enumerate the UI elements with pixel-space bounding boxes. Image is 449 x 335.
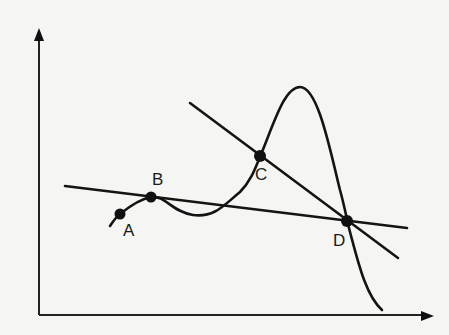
- x-axis-arrow-icon: [421, 311, 434, 321]
- x-axis: [39, 311, 434, 321]
- y-axis: [34, 28, 44, 315]
- point-b-marker: [146, 192, 157, 203]
- line-cd: [190, 103, 398, 258]
- point-b-label: B: [152, 171, 163, 188]
- line-bd: [65, 186, 407, 228]
- point-c-label: C: [255, 166, 267, 183]
- point-c-marker: [254, 150, 266, 162]
- point-d-marker: [341, 215, 353, 227]
- point-a-marker: [115, 209, 126, 220]
- point-a-label: A: [123, 222, 134, 239]
- diagram-svg: [0, 0, 449, 335]
- diagram-canvas: A B C D: [0, 0, 449, 335]
- point-d-label: D: [333, 232, 345, 249]
- y-axis-arrow-icon: [34, 28, 44, 41]
